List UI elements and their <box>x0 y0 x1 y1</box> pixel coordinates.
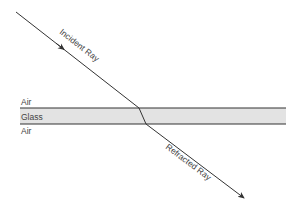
label-incident-ray: Incident Ray <box>58 27 102 64</box>
incident-arrow-icon <box>56 43 64 49</box>
diagram-svg: Air Glass Air Incident Ray Refracted Ray <box>0 0 297 214</box>
incident-ray <box>16 12 139 108</box>
refraction-diagram: Air Glass Air Incident Ray Refracted Ray <box>0 0 297 214</box>
glass-slab <box>20 108 286 124</box>
label-air-bottom: Air <box>21 126 32 136</box>
label-refracted-ray: Refracted Ray <box>164 142 214 183</box>
label-air-top: Air <box>21 97 32 107</box>
label-glass: Glass <box>21 112 43 122</box>
